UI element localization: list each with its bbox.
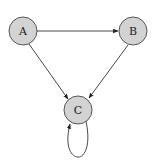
node-c-label: C xyxy=(74,104,82,117)
node-a: A xyxy=(9,17,37,45)
edge-b-c xyxy=(89,45,128,98)
node-b: B xyxy=(119,17,147,45)
graph-diagram: A B C xyxy=(0,0,160,161)
edge-a-c xyxy=(29,44,68,99)
node-c: C xyxy=(64,96,92,124)
edge-c-c-loop xyxy=(68,121,88,157)
node-b-label: B xyxy=(129,25,137,38)
node-a-label: A xyxy=(18,25,28,38)
